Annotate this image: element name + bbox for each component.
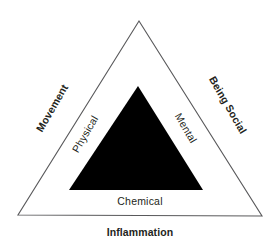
inner-label-chemical: Chemical xyxy=(117,196,162,207)
outer-label-inflammation: Inflammation xyxy=(107,227,174,238)
triangle-diagram: Movement Being Social Inflammation Physi… xyxy=(0,0,279,248)
